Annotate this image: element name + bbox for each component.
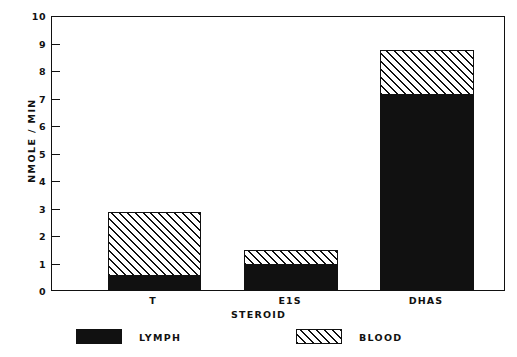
plot-area [51,16,505,291]
legend-label-lymph: LYMPH [139,332,181,343]
bar-DHAS-segment-lymph [380,95,474,290]
y-tick-label: 8 [12,66,46,77]
chart-figure: NMOLE / MIN 10 9 8 7 6 5 4 3 2 1 0 T [0,0,517,357]
legend-label-blood: BLOOD [359,332,403,343]
y-tick-mark [51,209,60,210]
y-tick-label: 0 [12,286,46,297]
bar-E1S [244,250,338,290]
y-tick-mark [51,126,60,127]
bar-T-segment-blood [108,212,201,276]
y-tick-label: 4 [12,176,46,187]
y-tick-label: 2 [12,231,46,242]
y-tick-label: 6 [12,121,46,132]
bar-E1S-segment-blood [244,250,338,265]
bar-T-segment-lymph [108,276,201,290]
y-tick-mark [51,264,60,265]
y-tick-label: 7 [12,94,46,105]
x-tick-label-E1S: E1S [250,295,330,306]
y-tick-label: 10 [12,11,46,22]
y-tick-mark [51,236,60,237]
y-tick-label: 3 [12,204,46,215]
bar-DHAS-segment-blood [380,50,474,95]
bar-DHAS [380,50,474,290]
bar-T [108,212,201,290]
y-tick-label: 5 [12,149,46,160]
x-tick-label-DHAS: DHAS [386,295,466,306]
bar-E1S-segment-lymph [244,265,338,290]
legend-swatch-blood [296,329,342,344]
y-tick-label: 1 [12,259,46,270]
x-axis-title: STEROID [0,309,517,320]
y-tick-mark [51,99,60,100]
y-tick-mark [51,181,60,182]
y-tick-label: 9 [12,39,46,50]
y-tick-mark [51,44,60,45]
legend-swatch-lymph [76,329,122,344]
y-tick-mark [51,71,60,72]
y-tick-mark [51,154,60,155]
x-tick-label-T: T [113,295,193,306]
